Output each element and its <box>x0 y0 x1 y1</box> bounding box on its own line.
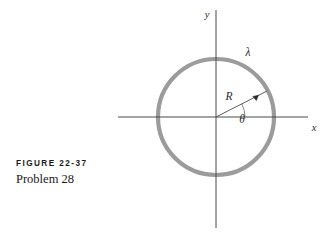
theta-label: θ <box>239 113 245 125</box>
radius-label: R <box>224 90 232 102</box>
y-axis-label: y <box>204 9 210 20</box>
figure-caption: FIGURE 22-37 Problem 28 <box>16 158 166 187</box>
x-axis-label: x <box>311 122 317 133</box>
figure-container: y x λ R θ FIGURE 22-37 Problem 28 <box>0 0 336 236</box>
ring-diagram: y x λ R θ <box>0 0 336 236</box>
lambda-label: λ <box>245 46 251 58</box>
figure-number-label: FIGURE 22-37 <box>16 158 166 169</box>
figure-problem-label: Problem 28 <box>16 172 166 187</box>
